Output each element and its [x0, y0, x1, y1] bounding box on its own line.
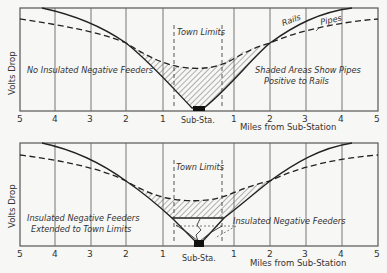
feeder-right	[200, 226, 222, 241]
bottom-y-axis-label: Volts Drop	[7, 184, 17, 228]
tick-label: 5	[17, 249, 23, 259]
top-y-axis-label: Volts Drop	[7, 51, 17, 95]
tick-label: 5	[374, 249, 380, 259]
bottom-substation-icon	[194, 240, 204, 247]
tick-label: 1	[160, 114, 166, 124]
top-panel: Town Limits Rails Pipes No Insulated Neg…	[7, 8, 380, 132]
top-right-note-2: Positive to Rails	[264, 76, 330, 86]
tick-label: 3	[87, 249, 93, 259]
feeder-label: Insulated Negative Feeders	[233, 216, 346, 226]
bottom-substation-label: Sub-Sta.	[182, 254, 216, 263]
tick-label: 2	[123, 114, 129, 124]
top-left-note: No Insulated Negative Feeders	[27, 65, 154, 75]
feeder-center	[196, 219, 201, 241]
tick-label: 2	[123, 249, 129, 259]
top-town-limits-label: Town Limits	[177, 27, 226, 37]
top-substation-label: Sub-Sta.	[181, 116, 215, 125]
tick-label: 5	[17, 114, 23, 124]
bottom-panel: Town Limits Insulated Negative Feeders I…	[7, 143, 380, 268]
bottom-rails-dip	[172, 218, 224, 242]
bottom-town-limits-label: Town Limits	[176, 162, 225, 172]
bottom-x-axis-label: Miles from Sub-Station	[250, 258, 346, 268]
rails-label: Rails	[280, 12, 302, 28]
top-shaded-area	[126, 43, 270, 108]
bottom-left-note-1: Insulated Negative Feeders	[27, 213, 140, 223]
tick-label: 1	[231, 249, 237, 259]
tick-label: 4	[52, 249, 58, 259]
tick-label: 5	[374, 114, 380, 124]
tick-label: 1	[160, 249, 166, 259]
top-right-note-1: Shaded Areas Show Pipes	[255, 65, 361, 75]
top-x-axis-label: Miles from Sub-Station	[240, 122, 336, 132]
tick-label: 4	[52, 114, 58, 124]
bottom-left-note-2: Extended to Town Limits	[31, 224, 132, 234]
tick-label: 3	[87, 114, 93, 124]
top-substation-icon	[193, 106, 205, 111]
tick-label: 1	[231, 114, 237, 124]
tick-label: 4	[338, 114, 344, 124]
volts-drop-diagram: Town Limits Rails Pipes No Insulated Neg…	[0, 0, 387, 273]
